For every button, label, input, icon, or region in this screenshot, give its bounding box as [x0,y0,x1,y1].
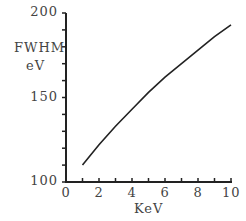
y-axis-label-line1: FWHM [14,40,65,55]
fwhm-curve [83,25,232,165]
axes [62,13,232,183]
x-axis-label: KeV [134,201,163,216]
y-tick-label: 200 [30,4,58,19]
x-tick-label: 8 [194,185,203,200]
y-tick-label: 150 [30,89,58,104]
x-tick-label: 6 [161,185,170,200]
y-axis-label-line2: eV [26,58,45,73]
x-tick-label: 2 [95,185,104,200]
y-tick-label: 100 [30,173,58,188]
x-tick-label: 0 [62,185,71,200]
x-tick-label: 4 [128,185,137,200]
x-tick-label: 10 [222,185,241,200]
